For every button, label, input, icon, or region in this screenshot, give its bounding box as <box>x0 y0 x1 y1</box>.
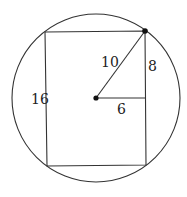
center-dot <box>93 95 98 100</box>
vertex-dot <box>142 28 148 34</box>
label-vertical: 8 <box>148 58 157 74</box>
geometry-diagram: 16 10 8 6 <box>0 0 187 197</box>
label-horizontal: 6 <box>117 101 126 117</box>
label-left-side: 16 <box>31 91 49 107</box>
label-radius: 10 <box>101 54 119 70</box>
